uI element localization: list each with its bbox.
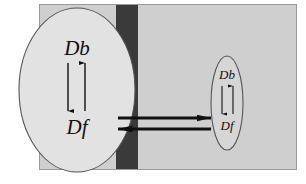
diagram-canvas: Db Df Db Df <box>0 0 306 184</box>
large-compartment <box>19 8 135 172</box>
large-compartment-label-bottom: Df <box>66 115 91 139</box>
large-compartment-label-top: Db <box>63 36 90 60</box>
small-compartment-label-bottom: Df <box>220 118 236 133</box>
diagram-figure: Db Df Db Df <box>0 0 306 184</box>
small-compartment-label-top: Db <box>218 67 235 82</box>
